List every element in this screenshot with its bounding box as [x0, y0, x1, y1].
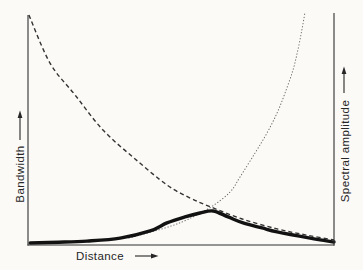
distance-direction-arrow-icon — [135, 254, 159, 259]
x-axis-label: Distance — [76, 250, 124, 262]
figure-container: Bandwidth Spectral amplitude Distance — [0, 0, 363, 270]
plot-svg: Bandwidth Spectral amplitude Distance — [0, 0, 363, 270]
y-axis-right-label: Spectral amplitude — [339, 100, 351, 202]
bandwidth-direction-arrow-icon — [18, 111, 23, 141]
y-axis-left-label: Bandwidth — [14, 145, 26, 202]
curve-spectral-amplitude-dotted — [129, 13, 305, 238]
curve-thick-solid — [30, 211, 334, 243]
curve-bandwidth-dashed — [29, 15, 334, 240]
spectral-direction-arrow-icon — [342, 67, 347, 94]
